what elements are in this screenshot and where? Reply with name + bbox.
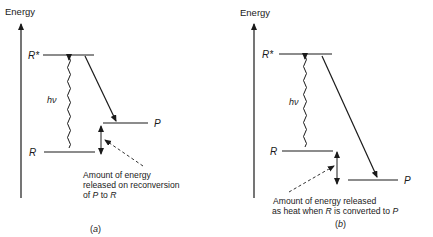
- annotation-text: Amount of energy released on reconversio…: [83, 170, 180, 200]
- photon-label: hν: [47, 95, 57, 105]
- photon-wavy-arrow: [68, 57, 71, 148]
- energy-axis-label: Energy: [5, 6, 35, 17]
- photon-wavy-arrow: [304, 56, 307, 147]
- energy-axis-label: Energy: [240, 7, 270, 18]
- panel-b: Energy R* hν R P Amount of energy releas…: [240, 7, 411, 229]
- annotation-pointer: [289, 166, 334, 192]
- caption-a: (a): [90, 224, 101, 234]
- r-label: R: [270, 146, 277, 157]
- annotation-pointer: [105, 140, 143, 166]
- r-star-label: R*: [28, 50, 40, 61]
- reaction-arrow: [322, 56, 377, 177]
- r-star-label: R*: [262, 49, 274, 60]
- svg-text:Amount of energy: Amount of energy: [83, 170, 152, 180]
- r-label: R: [29, 147, 36, 158]
- reaction-arrow: [85, 56, 116, 121]
- energy-diagrams: Energy R* hν P R Amount of energy releas…: [0, 0, 433, 237]
- photon-label: hν: [289, 97, 299, 107]
- annotation-text: Amount of energy released as heat when R…: [272, 196, 398, 216]
- svg-text:Amount of energy released: Amount of energy released: [273, 196, 376, 206]
- svg-text:as heat when R is converted to: as heat when R is converted to P: [272, 206, 398, 216]
- caption-b: (b): [335, 219, 346, 229]
- panel-a: Energy R* hν P R Amount of energy releas…: [5, 6, 180, 234]
- svg-text:released on reconversion: released on reconversion: [83, 180, 180, 190]
- p-label: P: [404, 175, 411, 186]
- p-label: P: [154, 118, 161, 129]
- svg-text:of P to R: of P to R: [83, 190, 116, 200]
